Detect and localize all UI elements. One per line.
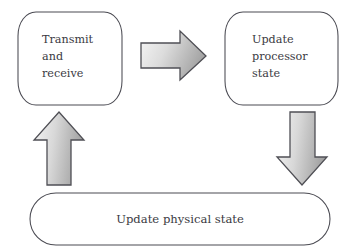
node-label-line-1: Transmit bbox=[42, 33, 94, 46]
diagram-canvas: Transmit and receive Update processor st… bbox=[0, 0, 356, 251]
arrow-physical-to-transmit bbox=[34, 112, 84, 185]
node-label-line-2: processor bbox=[252, 50, 308, 63]
node-update-processor-state[interactable]: Update processor state bbox=[225, 12, 338, 105]
arrow-transmit-to-processor bbox=[141, 31, 206, 80]
node-shape-barrel-left bbox=[18, 12, 122, 105]
node-label-line-1: Update bbox=[252, 33, 294, 46]
up-arrow-icon bbox=[34, 112, 84, 185]
node-label-line-3: receive bbox=[42, 67, 84, 80]
arrow-processor-to-physical bbox=[277, 112, 327, 185]
right-arrow-icon bbox=[141, 31, 206, 80]
node-label-line-2: and bbox=[42, 50, 63, 63]
node-label-line-3: state bbox=[252, 67, 280, 80]
flowchart-diagram: Transmit and receive Update processor st… bbox=[0, 0, 356, 251]
node-transmit-and-receive[interactable]: Transmit and receive bbox=[18, 12, 122, 105]
node-label-line-1: Update physical state bbox=[116, 212, 244, 226]
down-arrow-icon bbox=[277, 112, 327, 185]
node-update-physical-state[interactable]: Update physical state bbox=[30, 193, 330, 245]
